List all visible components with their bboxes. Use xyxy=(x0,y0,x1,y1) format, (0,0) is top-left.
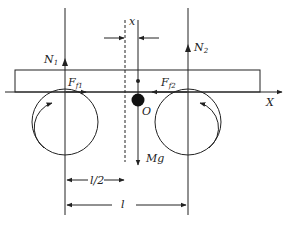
free-body-diagram: x N1 N2 Ff1 Ff2 O X l/2 Mg l xyxy=(0,0,285,233)
half-length-label: l/2 xyxy=(90,175,104,186)
n2-label: N2 xyxy=(194,42,208,55)
ff2-label: Ff2 xyxy=(161,77,176,90)
n1-label: N1 xyxy=(44,54,58,67)
x-axis-label: X xyxy=(266,97,274,108)
n2-arrowhead-icon xyxy=(185,44,191,52)
right-rotation-arrow-icon xyxy=(200,103,219,148)
length-label: l xyxy=(121,199,125,210)
origin-label: O xyxy=(142,106,151,117)
left-rotation-arrow-icon xyxy=(34,103,52,148)
small-point-dot xyxy=(136,79,140,83)
x-offset-label: x xyxy=(129,16,135,27)
weight-label: Mg xyxy=(146,153,164,164)
n1-arrowhead-icon xyxy=(62,58,68,66)
ff1-label: Ff1 xyxy=(68,77,83,90)
